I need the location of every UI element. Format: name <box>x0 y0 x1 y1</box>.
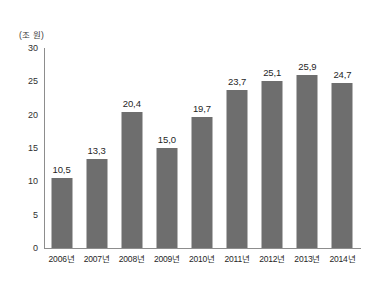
y-tick-label: 10 <box>28 176 38 186</box>
y-tick-label: 0 <box>33 243 38 253</box>
bar[interactable] <box>297 75 318 248</box>
y-tick-label: 5 <box>33 210 38 220</box>
bar[interactable] <box>332 83 353 248</box>
bar[interactable] <box>191 117 212 248</box>
x-tick-label: 2014년 <box>329 252 355 264</box>
y-axis-unit-label: (조 원) <box>19 28 44 40</box>
bar-chart-figure: (조 원) 051015202530 10,513,320,415,019,72… <box>0 0 372 291</box>
x-axis-line <box>44 248 361 249</box>
bar[interactable] <box>227 90 248 248</box>
x-axis-tick-labels: 2006년2007년2008년2009년2010년2011년2012년2013년… <box>44 252 360 268</box>
bar-group[interactable]: 15,0 <box>149 48 184 248</box>
bar-value-label: 10,5 <box>53 164 71 175</box>
y-tick-label: 15 <box>28 143 38 153</box>
plot-area: 10,513,320,415,019,723,725,125,924,7 <box>44 48 360 248</box>
bar[interactable] <box>156 148 177 248</box>
bar[interactable] <box>51 178 72 248</box>
bar-group[interactable]: 10,5 <box>44 48 79 248</box>
bar-value-label: 13,3 <box>88 145 106 156</box>
y-tick-label: 25 <box>28 76 38 86</box>
bar-group[interactable]: 25,9 <box>290 48 325 248</box>
bar-value-label: 25,9 <box>298 61 316 72</box>
y-tick-label: 30 <box>28 43 38 53</box>
bar-value-label: 15,0 <box>158 134 176 145</box>
bar-value-label: 20,4 <box>123 98 141 109</box>
x-tick-label: 2007년 <box>84 252 110 264</box>
x-tick-label: 2009년 <box>154 252 180 264</box>
bar-group[interactable]: 24,7 <box>325 48 360 248</box>
bar[interactable] <box>86 159 107 248</box>
y-axis-tick-labels: 051015202530 <box>22 48 38 248</box>
bar-value-label: 24,7 <box>333 69 351 80</box>
bar-group[interactable]: 25,1 <box>255 48 290 248</box>
y-tick-label: 20 <box>28 110 38 120</box>
bar-group[interactable]: 13,3 <box>79 48 114 248</box>
x-tick-label: 2013년 <box>294 252 320 264</box>
bar-group[interactable]: 23,7 <box>220 48 255 248</box>
bar-value-label: 25,1 <box>263 67 281 78</box>
bar-value-label: 19,7 <box>193 103 211 114</box>
x-tick-label: 2011년 <box>224 252 249 264</box>
bar-value-label: 23,7 <box>228 76 246 87</box>
bar[interactable] <box>262 81 283 248</box>
bar-group[interactable]: 19,7 <box>184 48 219 248</box>
x-tick-label: 2012년 <box>259 252 285 264</box>
x-tick-label: 2008년 <box>119 252 145 264</box>
bar[interactable] <box>121 112 142 248</box>
x-tick-label: 2010년 <box>189 252 215 264</box>
bar-group[interactable]: 20,4 <box>114 48 149 248</box>
x-tick-label: 2006년 <box>49 252 75 264</box>
